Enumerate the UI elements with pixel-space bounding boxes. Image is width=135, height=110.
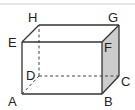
vertex-label-e: E (8, 35, 17, 50)
edge-eh (22, 25, 39, 42)
prism-diagram: H G E F D C A B (0, 0, 135, 110)
vertex-label-b: B (104, 94, 113, 109)
shaded-face-bcgf (102, 25, 119, 94)
vertex-label-a: A (8, 94, 17, 109)
vertex-label-g: G (108, 10, 118, 25)
vertex-label-d: D (26, 68, 35, 83)
vertex-label-c: C (121, 74, 130, 89)
vertex-label-h: H (28, 10, 37, 25)
vertex-label-f: F (104, 40, 112, 55)
